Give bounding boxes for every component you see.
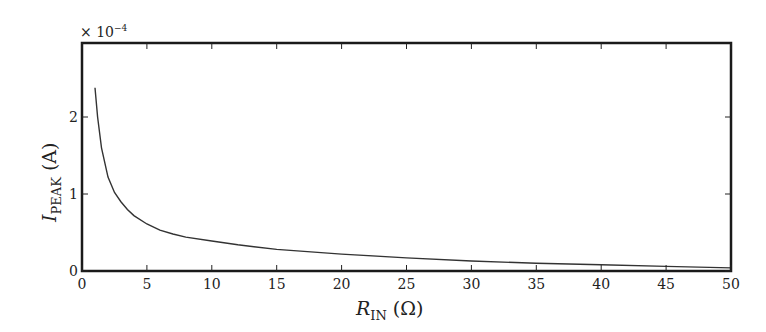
y-tick-label: 2	[69, 109, 78, 125]
x-tick-label: 40	[592, 276, 610, 292]
plot-frame	[82, 43, 731, 271]
y-multiplier: × 10−4	[80, 23, 128, 40]
x-axis-label: RIN (Ω)	[355, 297, 423, 323]
x-axis-ticks: 05101520253035404550	[78, 43, 740, 292]
x-tick-label: 50	[722, 276, 740, 292]
x-tick-label: 15	[268, 276, 286, 292]
x-tick-label: 45	[657, 276, 675, 292]
x-tick-label: 30	[462, 276, 480, 292]
x-tick-label: 20	[333, 276, 351, 292]
x-tick-label: 5	[142, 276, 151, 292]
y-tick-label: 0	[69, 263, 78, 279]
x-tick-label: 25	[398, 276, 416, 292]
x-tick-label: 0	[78, 276, 87, 292]
y-axis-ticks: 012	[69, 109, 731, 279]
data-line	[95, 88, 731, 268]
x-tick-label: 10	[203, 276, 221, 292]
x-tick-label: 35	[527, 276, 545, 292]
y-tick-label: 1	[69, 186, 78, 202]
chart: 05101520253035404550 012 × 10−4 RIN (Ω) …	[0, 0, 766, 332]
y-axis-label: IPEAK (A)	[38, 143, 64, 223]
